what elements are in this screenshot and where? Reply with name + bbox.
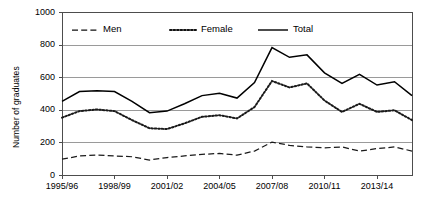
x-axis-tick-label: 2010/11 (295, 181, 355, 191)
x-axis-tick-label: 2007/08 (242, 181, 302, 191)
legend-label-total: Total (293, 23, 313, 34)
series-line-men (62, 142, 412, 160)
y-axis-title: Number of graduates (11, 66, 21, 148)
y-axis-tick-label: 1000 (25, 7, 55, 17)
y-axis-tick-label: 800 (25, 39, 55, 49)
legend-label-men: Men (103, 23, 121, 34)
gridlines (59, 13, 412, 176)
y-axis-tick-label: 200 (25, 137, 55, 147)
x-axis-tick-label: 1995/96 (32, 181, 92, 191)
x-axis-tick-label: 2013/14 (347, 181, 407, 191)
plot-frame (62, 13, 412, 179)
x-axis-tick-label: 1998/99 (85, 181, 145, 191)
y-axis-tick-label: 400 (25, 104, 55, 114)
x-axis-tick-label: 2004/05 (190, 181, 250, 191)
y-axis-tick-label: 0 (25, 170, 55, 180)
legend-label-female: Female (201, 23, 233, 34)
series-line-female (62, 81, 412, 129)
y-axis-tick-label: 600 (25, 72, 55, 82)
x-axis-tick-label: 2001/02 (137, 181, 197, 191)
chart-container: Number of graduates 02004006008001000 19… (0, 0, 427, 200)
